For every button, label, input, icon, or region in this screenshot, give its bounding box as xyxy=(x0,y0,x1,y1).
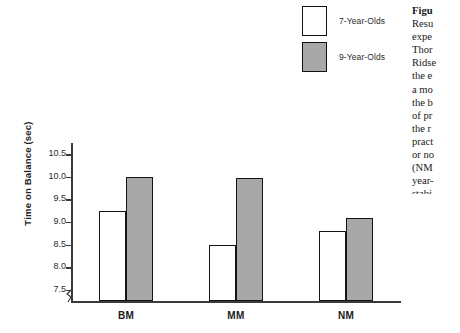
caption-line: Figu xyxy=(412,4,460,17)
bar-bm-7-year-olds xyxy=(99,211,126,301)
x-axis-label-nm: NM xyxy=(316,310,376,321)
caption-line: pract xyxy=(412,135,460,148)
y-axis-tick-label: 9.5 xyxy=(32,193,66,203)
y-axis-tick-labels: 7.58.08.59.09.510.010.5 xyxy=(28,0,66,333)
bars-container xyxy=(71,143,401,301)
caption-line: a mo xyxy=(412,83,460,96)
y-axis-tick-label: 10.5 xyxy=(32,148,66,158)
caption-line: or no xyxy=(412,148,460,161)
bar-nm-7-year-olds xyxy=(319,231,346,301)
caption-line: the e xyxy=(412,69,460,82)
y-axis-tick-label: 9.0 xyxy=(32,216,66,226)
caption-line: (NM xyxy=(412,161,460,174)
caption-line: Thor xyxy=(412,43,460,56)
caption-line: Ridse xyxy=(412,56,460,69)
bar-chart: Time on Balance (sec) 7.58.08.59.09.510.… xyxy=(0,0,410,333)
caption-line: Resu xyxy=(412,17,460,30)
figure-page: 7-Year-Olds 9-Year-Olds Figu Resu expe T… xyxy=(0,0,460,333)
caption-line: year- xyxy=(412,174,460,187)
x-axis-label-bm: BM xyxy=(96,310,156,321)
caption-line: expe xyxy=(412,30,460,43)
caption-line: the b xyxy=(412,96,460,109)
y-axis-tick-label: 8.5 xyxy=(32,239,66,249)
bar-mm-9-year-olds xyxy=(236,178,263,301)
bar-nm-9-year-olds xyxy=(346,218,373,302)
bar-bm-9-year-olds xyxy=(126,177,153,301)
caption-line: stabi xyxy=(412,187,460,194)
y-axis-tick-label: 8.0 xyxy=(32,261,66,271)
x-axis-line xyxy=(71,301,401,303)
y-axis-tick-label: 10.0 xyxy=(32,171,66,181)
x-axis-label-mm: MM xyxy=(206,310,266,321)
caption-line: of pr xyxy=(412,109,460,122)
bar-mm-7-year-olds xyxy=(209,245,236,301)
y-axis-tick-label: 7.5 xyxy=(32,284,66,294)
figure-caption: Figu Resu expe Thor Ridse the e a mo the… xyxy=(412,4,460,194)
caption-line: the r xyxy=(412,122,460,135)
